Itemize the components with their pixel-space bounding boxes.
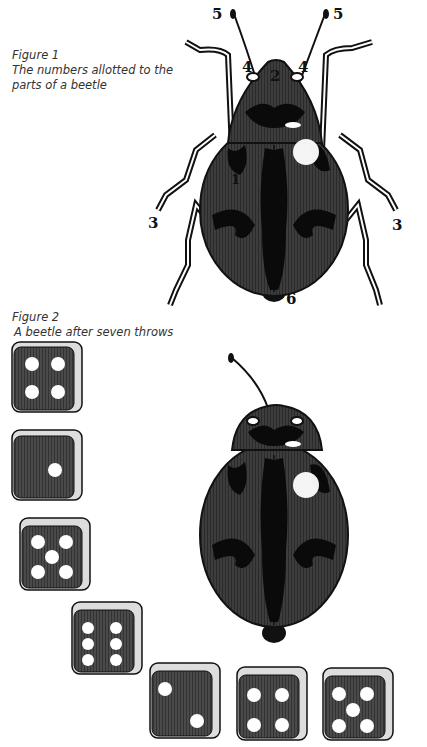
die-throw-6 <box>237 667 307 740</box>
label-leg-right: 3 <box>392 216 402 234</box>
label-tail: 6 <box>286 290 296 308</box>
beetle-highlight <box>293 139 319 165</box>
die-throw-2 <box>12 430 82 500</box>
beetle-head <box>232 405 322 450</box>
feeler-left-tip <box>228 353 234 363</box>
beetle-eye-right <box>291 417 303 425</box>
label-feeler-right: 5 <box>333 5 343 23</box>
die-throw-5 <box>150 663 220 738</box>
label-eye-left: 4 <box>242 58 252 76</box>
die-throw-1 <box>12 342 82 412</box>
die-throw-3 <box>20 518 90 590</box>
feeler-left <box>232 358 268 408</box>
label-eye-right: 4 <box>298 58 308 76</box>
feeler-left-tip <box>230 9 236 19</box>
figure-2-caption: Figure 2 A beetle after seven throws <box>12 310 173 340</box>
label-feeler-left: 5 <box>212 5 222 23</box>
beetle-tail <box>262 623 286 643</box>
feeler-right-tip <box>323 9 329 19</box>
beetle-diagram-full <box>0 0 427 320</box>
beetle-body <box>200 443 348 627</box>
label-leg-left: 3 <box>148 214 158 232</box>
figure-2-title: Figure 2 <box>12 310 173 325</box>
figure-2-caption-text: A beetle after seven throws <box>12 325 173 340</box>
die-throw-4 <box>72 602 142 674</box>
beetle-highlight <box>293 472 319 498</box>
beetle-eye-left <box>247 417 259 425</box>
label-head: 2 <box>270 67 280 85</box>
label-body: 1 <box>231 172 240 187</box>
die-throw-7 <box>323 668 393 740</box>
